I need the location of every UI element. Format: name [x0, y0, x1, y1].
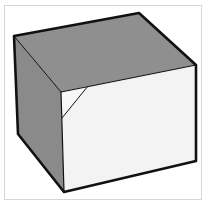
box-drawing — [0, 0, 204, 204]
